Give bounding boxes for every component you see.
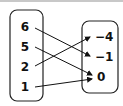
mapping-diagram: 6 5 2 1 −4 −1 0 — [0, 0, 123, 106]
domain-value: 5 — [21, 40, 29, 54]
range-value: −4 — [95, 30, 113, 44]
domain-value: 1 — [21, 80, 29, 94]
range-value: −1 — [95, 50, 113, 64]
domain-value: 6 — [21, 20, 29, 34]
domain-value: 2 — [21, 60, 29, 74]
range-value: 0 — [97, 70, 105, 84]
